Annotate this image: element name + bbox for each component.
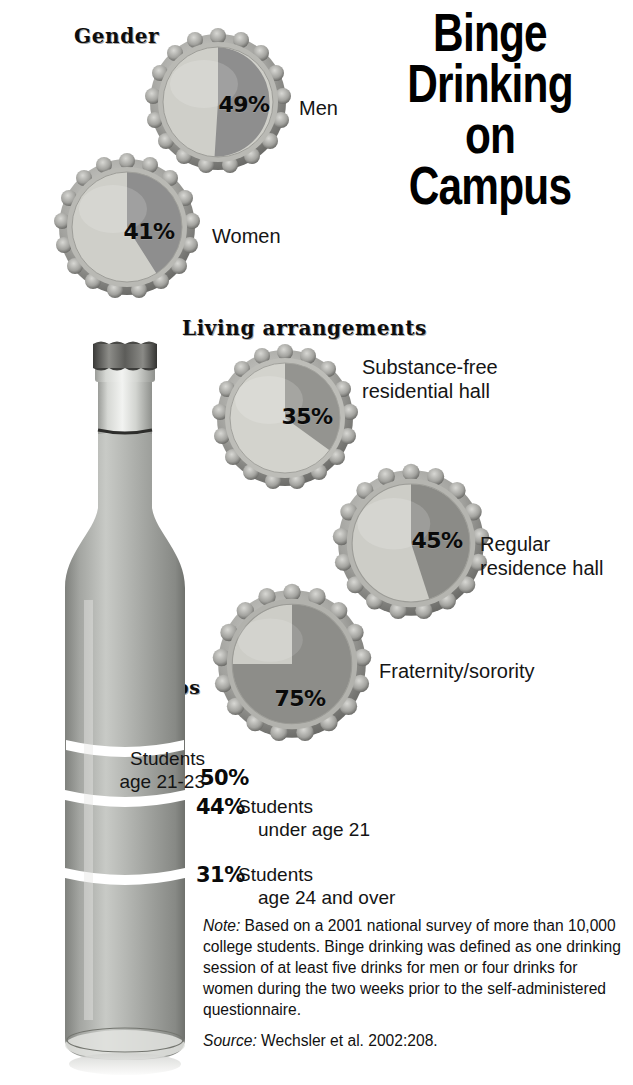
age-group-label-2: Students age 24 and over xyxy=(238,864,395,910)
note-lead: Note: xyxy=(203,917,240,934)
age-group-label-0-line2: age 21-23 xyxy=(109,771,205,794)
cap-label-women: Women xyxy=(212,225,281,249)
cap-value-substance-free: 35% xyxy=(281,404,332,429)
age-group-value-0: 50% xyxy=(200,766,249,790)
cap-value-men: 49% xyxy=(218,92,269,117)
bottle-neck xyxy=(98,376,152,434)
age-group-label-1-line1: Students xyxy=(238,796,370,819)
footnote-block: Note: Based on a 2001 national survey of… xyxy=(203,916,621,1063)
cap-value-fraternity: 75% xyxy=(274,686,325,711)
note-paragraph: Note: Based on a 2001 national survey of… xyxy=(203,916,621,1020)
age-group-label-1: Students under age 21 xyxy=(238,796,370,842)
note-text: Based on a 2001 national survey of more … xyxy=(203,917,621,1018)
source-text: Wechsler et al. 2002:208. xyxy=(257,1032,438,1049)
age-group-label-0-line1: Students xyxy=(109,748,205,771)
age-group-label-2-line2: age 24 and over xyxy=(258,887,395,910)
section-header-living: Living arrangements xyxy=(182,316,427,340)
cap-value-women: 41% xyxy=(123,219,174,244)
cap-label-regular-residence: Regular residence hall xyxy=(480,533,603,580)
cap-label-fraternity: Fraternity/sorority xyxy=(379,660,535,684)
cap-chart-fraternity[interactable]: 75% xyxy=(216,588,368,740)
age-group-label-0: Students age 21-23 xyxy=(109,748,205,794)
bottle-cap-crimp-top xyxy=(93,342,157,345)
cap-label-regular-residence-line2: residence hall xyxy=(480,557,603,581)
bottle-highlight xyxy=(84,600,93,1020)
cap-gloss xyxy=(238,618,303,661)
page-title: Binge Drinking on Campus xyxy=(380,8,601,212)
source-lead: Source: xyxy=(203,1032,257,1049)
cap-value-regular-residence: 45% xyxy=(411,528,462,553)
cap-label-substance-free: Substance-free residential hall xyxy=(362,356,498,403)
cap-chart-women[interactable]: 41% xyxy=(57,157,197,297)
cap-label-substance-free-line2: residential hall xyxy=(362,380,498,404)
section-header-gender: Gender xyxy=(74,24,159,48)
title-line-1: Binge xyxy=(380,8,601,59)
bottle-cap xyxy=(93,344,157,368)
cap-label-substance-free-line1: Substance-free xyxy=(362,356,498,380)
age-group-label-2-line1: Students xyxy=(238,864,395,887)
cap-chart-men[interactable]: 49% xyxy=(148,32,288,172)
cap-chart-substance-free[interactable]: 35% xyxy=(215,348,355,488)
source-paragraph: Source: Wechsler et al. 2002:208. xyxy=(203,1031,621,1052)
cap-label-men: Men xyxy=(299,97,338,121)
beer-bottle-illustration xyxy=(50,338,200,1078)
bottle-reflection xyxy=(69,1053,181,1075)
age-group-label-1-line2: under age 21 xyxy=(258,819,370,842)
title-line-3: on Campus xyxy=(380,110,601,212)
cap-label-regular-residence-line1: Regular xyxy=(480,533,603,557)
title-line-2: Drinking xyxy=(380,59,601,110)
infographic-canvas: Binge Drinking on Campus Gender Living a… xyxy=(0,0,633,1085)
